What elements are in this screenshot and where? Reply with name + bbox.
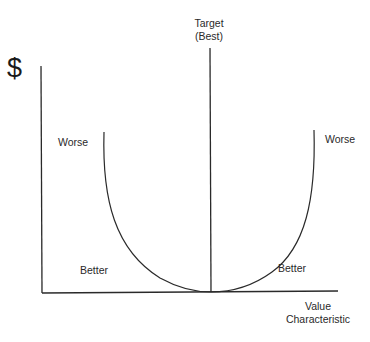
y-axis-dollar-symbol: $ [7,55,22,82]
x-axis-label: Value Characteristic [282,300,354,326]
target-label-line1: Target [186,17,232,30]
left-better-label: Better [80,264,108,277]
target-label: Target (Best) [186,17,232,43]
target-label-line2: (Best) [186,30,232,43]
right-better-label: Better [278,262,306,275]
x-axis-label-line2: Characteristic [282,313,354,326]
left-worse-label: Worse [58,136,88,149]
x-axis [42,291,338,293]
y-axis [41,66,42,293]
x-axis-label-line1: Value [282,300,354,313]
diagram-canvas [0,0,370,342]
target-line [210,48,211,292]
right-worse-label: Worse [325,133,355,146]
